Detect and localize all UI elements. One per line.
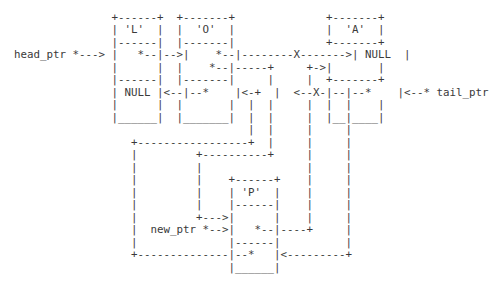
diagram-line: | | | | [1,161,352,174]
diagram-line-node-p-bottom: |______| [1,261,281,274]
diagram-line: | | |------| | | [1,198,352,211]
linked-list-ascii-diagram: +------+ +-------+ +-------+ | 'L' | | '… [1,0,489,274]
diagram-line: | +----------+ | | [1,148,352,161]
diagram-line-node-p-label: | | | 'P' | | | [1,186,352,199]
diagram-line: | | | | [1,123,352,136]
diagram-line-head-ptr: head_ptr *---> | *--|-->| *--|--------X-… [1,48,411,61]
diagram-line: +-----------------+ | | | [1,136,352,149]
diagram-line: +--------------|--* |<---------+ [1,248,352,261]
diagram-line: | | | | | | | | | | [1,98,385,111]
diagram-line-tail-ptr: | NULL |<--|--* |<-+ | <--X-|--|--* |<--… [1,86,489,99]
diagram-line: |------| |-------| | | +-------+ [1,73,385,86]
diagram-line-node-p-top: | | +------+ | | [1,173,352,186]
diagram-line: | |------| | [1,236,352,249]
diagram-line-node-labels: | 'L' | | 'O' | | 'A' | [1,23,385,36]
diagram-line: | | | *--|-----+ +->| | [1,61,385,74]
diagram-line-node-tops: +------+ +-------+ +-------+ [1,11,385,24]
diagram-line-new-ptr: | new_ptr *-->| *--|----+ | [1,223,352,236]
diagram-line: |------| |-------| +-------+ [1,36,385,49]
diagram-line: | +--->| | | | [1,211,352,224]
diagram-line-node-bottoms: |______| |_______| | | | |__|____| [1,111,385,124]
